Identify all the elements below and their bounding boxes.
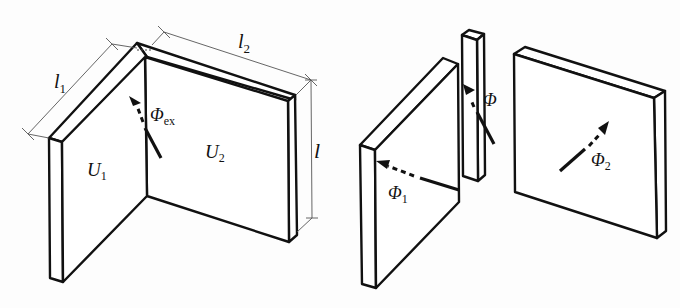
label-phi: Φ [483,90,497,110]
plate-phi1: Φ1 [360,58,459,288]
plate-1-front-edge [360,145,376,288]
plate-phi2: Φ2 [514,47,666,238]
diagram-svg: l1 l2 l U1 U2 Φex [0,0,680,308]
post-face [462,35,478,181]
wall-u1-front-edge [49,138,63,282]
dimension-l: l [296,80,320,232]
label-l2: l2 [238,30,250,56]
post-phi: Φ [462,30,497,181]
label-l1: l1 [54,70,66,96]
diagram-canvas: l1 l2 l U1 U2 Φex [0,0,680,308]
label-l: l [314,138,320,163]
left-corner-assembly: l1 l2 l U1 U2 Φex [22,26,320,282]
right-decomposed-elements: Φ1 Φ Φ2 [360,30,666,288]
